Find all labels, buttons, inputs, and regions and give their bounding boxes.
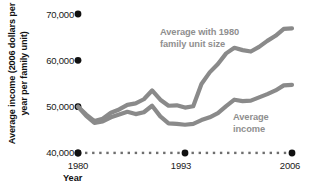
y-axis-title: Average income (2006 dollars per year pe… bbox=[7, 0, 30, 154]
x-axis-title: Year bbox=[63, 173, 82, 183]
series-annotation-average-income: Average income bbox=[233, 112, 269, 135]
chart-plot-area bbox=[0, 0, 310, 188]
x-tick-label-1993: 1993 bbox=[161, 160, 201, 171]
series-annotation-average-with-1980-family-unit-size: Average with 1980 family unit size bbox=[160, 27, 239, 50]
x-tick-label-2006: 2006 bbox=[270, 160, 310, 171]
y-tick-label-50000: 50,000 bbox=[46, 101, 74, 112]
y-tick-label-60000: 60,000 bbox=[46, 55, 74, 66]
y-tick-label-70000: 70,000 bbox=[46, 9, 74, 20]
y-tick-label-40000: 40,000 bbox=[46, 147, 74, 158]
chart-figure: Average income (2006 dollars per year pe… bbox=[0, 0, 310, 188]
x-tick-label-1980: 1980 bbox=[58, 160, 98, 171]
